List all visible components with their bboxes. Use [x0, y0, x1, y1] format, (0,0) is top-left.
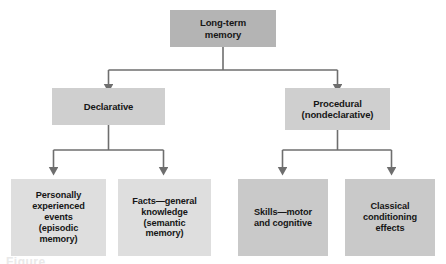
node-line: Personally — [29, 190, 88, 201]
node-line: (semantic — [129, 218, 200, 229]
node-procedural[interactable]: Procedural (nondeclarative) — [285, 88, 390, 130]
node-procedural-text: Procedural (nondeclarative) — [299, 98, 377, 120]
node-classical-conditioning[interactable]: Classical conditioning effects — [345, 179, 435, 256]
node-declarative-text: Declarative — [81, 101, 137, 112]
node-declarative[interactable]: Declarative — [52, 88, 165, 125]
node-line: Classical — [360, 201, 420, 212]
node-classical-conditioning-text: Classical conditioning effects — [360, 201, 420, 234]
node-line: memory) — [29, 234, 88, 245]
node-long-term-memory-text: Long-term memory — [197, 17, 249, 39]
node-skills-motor-cognitive[interactable]: Skills—motor and cognitive — [238, 179, 328, 256]
node-line: Facts—general — [129, 196, 200, 207]
node-line: memory — [197, 29, 249, 40]
node-line: (nondeclarative) — [299, 109, 377, 120]
node-line: effects — [360, 223, 420, 234]
node-line: Declarative — [81, 101, 137, 112]
node-line: (episodic — [29, 223, 88, 234]
flowchart-diagram: Long-term memory Declarative Procedural … — [0, 0, 446, 264]
node-episodic-memory[interactable]: Personally experienced events (episodic … — [11, 179, 106, 256]
node-semantic-memory[interactable]: Facts—general knowledge (semantic memory… — [118, 179, 211, 256]
node-line: Long-term — [197, 17, 249, 28]
node-line: conditioning — [360, 212, 420, 223]
node-episodic-memory-text: Personally experienced events (episodic … — [29, 190, 88, 244]
node-line: memory) — [129, 228, 200, 239]
node-line: and cognitive — [251, 218, 315, 229]
node-line: events — [29, 212, 88, 223]
node-line: experienced — [29, 201, 88, 212]
node-skills-motor-cognitive-text: Skills—motor and cognitive — [251, 207, 315, 229]
figure-caption: Figure — [6, 255, 146, 264]
node-line: Skills—motor — [251, 207, 315, 218]
node-line: Procedural — [299, 98, 377, 109]
node-long-term-memory[interactable]: Long-term memory — [170, 10, 276, 47]
node-semantic-memory-text: Facts—general knowledge (semantic memory… — [129, 196, 200, 239]
node-line: knowledge — [129, 207, 200, 218]
